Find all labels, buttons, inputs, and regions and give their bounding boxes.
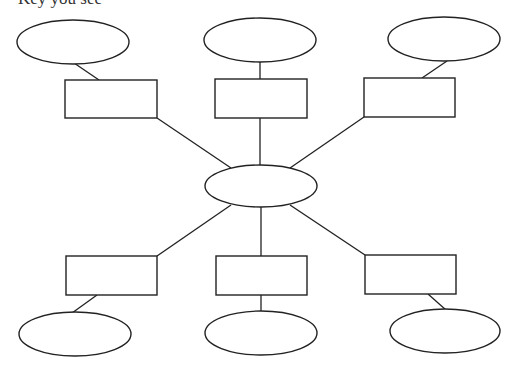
box-top-middle[interactable]: [215, 79, 307, 118]
bubble-top-middle[interactable]: [204, 18, 316, 62]
bubble-bottom-right[interactable]: [390, 309, 500, 353]
connector-box-bubble-bottom-right: [428, 294, 446, 310]
bubble-top-left[interactable]: [17, 20, 129, 64]
spider-diagram: [0, 0, 515, 371]
connector-box-bubble-bottom-left: [72, 295, 97, 313]
box-bottom-right[interactable]: [365, 255, 456, 294]
box-bottom-middle[interactable]: [216, 256, 307, 295]
center-ellipse[interactable]: [205, 165, 317, 207]
connector-box-bubble-top-left: [74, 63, 99, 80]
box-top-right[interactable]: [364, 78, 455, 117]
connector-center-top-right: [290, 117, 364, 168]
bubble-bottom-middle[interactable]: [205, 311, 317, 355]
box-bottom-left[interactable]: [66, 256, 157, 295]
box-top-left[interactable]: [65, 80, 157, 118]
bubble-bottom-left[interactable]: [19, 312, 131, 356]
connector-center-bottom-left: [157, 205, 231, 256]
bubble-top-right[interactable]: [388, 17, 500, 61]
connector-box-bubble-top-right: [422, 61, 447, 78]
connector-center-top-left: [157, 118, 231, 168]
connector-center-bottom-right: [290, 205, 365, 255]
